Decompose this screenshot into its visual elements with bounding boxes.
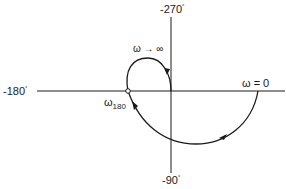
bottom-axis-label: -90° [162, 174, 180, 186]
left-axis-label: -180° [3, 85, 27, 97]
omega-infinity-label: ω → ∞ [133, 44, 164, 54]
direction-arrow-icon [132, 101, 138, 110]
direction-arrow-icon [164, 68, 170, 75]
omega-180-label: ω180 [104, 97, 126, 111]
top-axis-label: -270° [160, 3, 184, 15]
omega-zero-label: ω = 0 [242, 78, 269, 89]
omega-180-crossing-marker [126, 89, 131, 94]
nyquist-plot [0, 0, 286, 189]
frequency-response-curve [127, 58, 258, 144]
